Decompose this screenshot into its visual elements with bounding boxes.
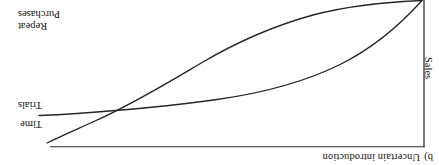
figure-caption-label: b) [424, 152, 433, 163]
curve-repeat-purchases [39, 1, 422, 116]
curve-label-repeat-purchases-line2: Purchases [18, 8, 60, 20]
chart-canvas [14, 0, 425, 148]
curve-label-repeat-purchases: Repeat Purchases [18, 8, 60, 32]
curve-label-trials: Trials [18, 100, 42, 112]
x-axis-title: Time [20, 119, 42, 130]
scanned-figure-page: b)Uncertain introduction Sales Time Tria… [0, 0, 439, 165]
curve-trials [47, 1, 422, 144]
curve-label-repeat-purchases-line1: Repeat [18, 20, 60, 32]
figure-caption: b)Uncertain introduction [323, 151, 434, 163]
figure-caption-text: Uncertain introduction [323, 152, 421, 163]
y-axis-title: Sales [423, 57, 434, 79]
plot-area: Sales Time Trials Repeat Purchases [14, 0, 425, 148]
